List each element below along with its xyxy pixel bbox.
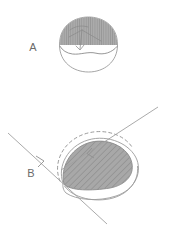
sketch-diagram-canvas: A B [0,0,172,236]
panel-label-b: B [27,167,35,179]
figure-root: A B [0,0,172,236]
panel-a: A [29,17,117,72]
panel-label-a: A [29,41,37,53]
panel-b: B [8,107,158,224]
